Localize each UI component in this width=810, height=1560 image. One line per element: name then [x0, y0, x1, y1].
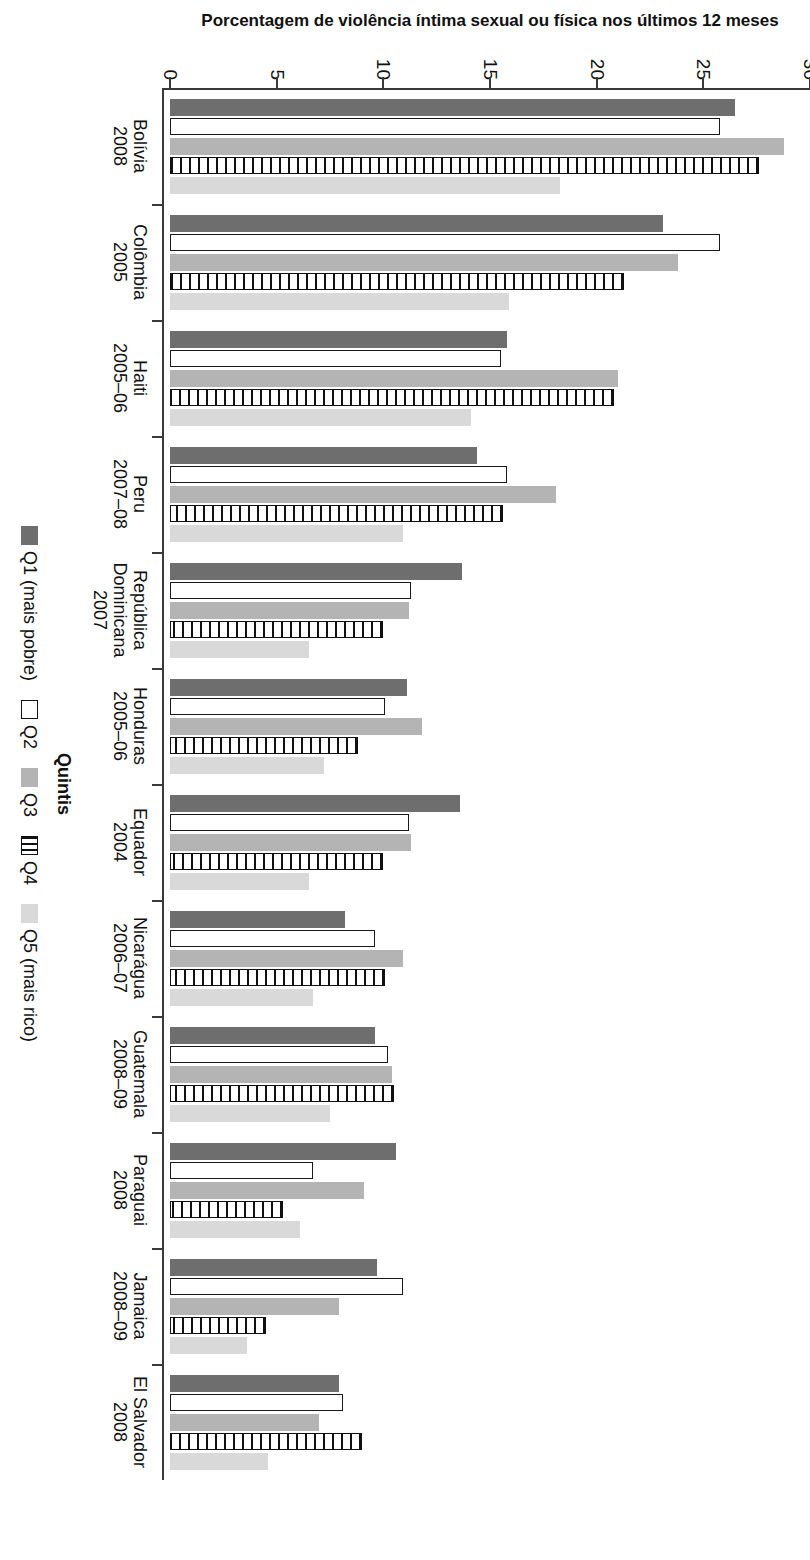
bar-q2	[170, 118, 720, 135]
x-axis-tick-mark	[152, 552, 163, 554]
category-country: Honduras	[130, 668, 150, 784]
bar-q4	[170, 853, 383, 870]
category-year: 2005–06	[110, 320, 130, 436]
bar-group	[170, 795, 810, 890]
bar-group	[170, 563, 810, 658]
category-label: Nicarágua2006–07	[110, 900, 150, 1016]
category-label: Bolívia2008	[110, 88, 150, 204]
category-year: 2007	[90, 552, 110, 668]
category-label: El Salvador2008	[110, 1364, 150, 1480]
category-year: 2008–09	[110, 1248, 130, 1364]
bar-q5	[170, 757, 324, 774]
bar-group	[170, 215, 810, 310]
legend-swatch-q5-icon	[21, 904, 38, 923]
category-label: Guatemala2008–09	[110, 1016, 150, 1132]
bar-q1	[170, 1143, 396, 1160]
bar-q3	[170, 834, 411, 851]
bar-group	[170, 911, 810, 1006]
bar-q1	[170, 911, 345, 928]
bar-q2	[170, 234, 720, 251]
bar-q5	[170, 525, 403, 542]
bar-q4	[170, 1201, 283, 1218]
legend-swatch-q1-icon	[21, 526, 38, 545]
legend-item-q3: Q3	[19, 768, 40, 817]
bar-q2	[170, 698, 385, 715]
legend-item-q2: Q2	[19, 700, 40, 749]
y-axis-tick-mark	[276, 77, 278, 88]
x-axis-title: Quintis	[53, 88, 74, 1480]
bar-q2	[170, 466, 507, 483]
chart-legend: Q1 (mais pobre)Q2Q3Q4Q5 (mais rico)	[19, 88, 40, 1480]
y-axis-title: Porcentagem de violência íntima sexual o…	[170, 6, 810, 36]
bar-q2	[170, 350, 501, 367]
plot-area	[170, 88, 810, 1480]
legend-item-q1: Q1 (mais pobre)	[19, 526, 40, 681]
y-axis-line	[162, 88, 810, 90]
category-label: Peru2007–08	[110, 436, 150, 552]
bar-q5	[170, 989, 313, 1006]
y-axis-tick-mark	[702, 77, 704, 88]
category-country: Bolívia	[130, 88, 150, 204]
bar-group	[170, 1143, 810, 1238]
bar-q1	[170, 99, 735, 116]
category-country: Paraguai	[130, 1132, 150, 1248]
bar-q3	[170, 602, 409, 619]
bar-q5	[170, 1453, 268, 1470]
bar-q5	[170, 1105, 330, 1122]
category-country: República	[130, 552, 150, 668]
bar-q3	[170, 370, 618, 387]
bar-q1	[170, 563, 462, 580]
legend-label: Q2	[19, 725, 40, 749]
bar-q3	[170, 718, 422, 735]
legend-label: Q1 (mais pobre)	[19, 551, 40, 681]
x-axis-tick-mark	[152, 784, 163, 786]
category-country: Haiti	[130, 320, 150, 436]
x-axis-tick-mark	[152, 900, 163, 902]
bar-q4	[170, 1433, 362, 1450]
category-label: Honduras2005–06	[110, 668, 150, 784]
legend-label: Q4	[19, 861, 40, 885]
bar-q4	[170, 157, 759, 174]
bar-group	[170, 331, 810, 426]
bar-q1	[170, 795, 460, 812]
category-country: Jamaica	[130, 1248, 150, 1364]
bar-q2	[170, 930, 375, 947]
category-labels: Bolívia2008Colômbia2005Haiti2005–06Peru2…	[80, 88, 150, 1480]
legend-swatch-q2-icon	[21, 700, 38, 719]
category-year: 2004	[110, 784, 130, 900]
bar-q2	[170, 582, 411, 599]
legend-item-q4: Q4	[19, 836, 40, 885]
legend-swatch-q3-icon	[21, 768, 38, 787]
bar-q4	[170, 389, 614, 406]
y-axis-tick-mark	[596, 77, 598, 88]
bar-q2	[170, 1394, 343, 1411]
x-axis-tick-mark	[152, 1132, 163, 1134]
bar-q5	[170, 873, 309, 890]
bar-q5	[170, 409, 471, 426]
bar-q2	[170, 1162, 313, 1179]
legend-item-q5: Q5 (mais rico)	[19, 904, 40, 1042]
bar-group	[170, 447, 810, 542]
x-axis-tick-mark	[152, 436, 163, 438]
bar-q4	[170, 505, 503, 522]
x-axis-tick-mark	[152, 320, 163, 322]
bar-q1	[170, 447, 477, 464]
bar-group	[170, 1027, 810, 1122]
bar-q1	[170, 679, 407, 696]
category-label: Jamaica2008–09	[110, 1248, 150, 1364]
category-country: Nicarágua	[130, 900, 150, 1016]
category-year: 2008	[110, 1364, 130, 1480]
category-year: 2005	[110, 204, 130, 320]
category-label: Paraguai2008	[110, 1132, 150, 1248]
bar-q3	[170, 138, 784, 155]
category-label: RepúblicaDominicana2007	[90, 552, 150, 668]
bar-q2	[170, 1278, 403, 1295]
bar-q4	[170, 1085, 394, 1102]
category-year: 2007–08	[110, 436, 130, 552]
category-year: 2006–07	[110, 900, 130, 1016]
y-axis-tick-mark	[382, 77, 384, 88]
bar-q4	[170, 621, 383, 638]
chart-page: Porcentagem de violência íntima sexual o…	[0, 0, 810, 1560]
bar-q1	[170, 1259, 377, 1276]
bar-group	[170, 679, 810, 774]
